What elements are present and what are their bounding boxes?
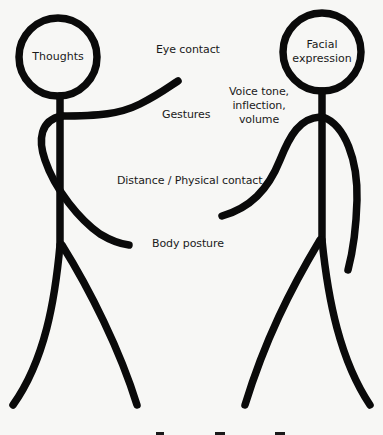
voice-line2: inflection, [229,99,289,113]
eye-contact-label: Eye contact [156,43,220,57]
thoughts-label: Thoughts [19,50,97,64]
distance-physical-contact-label: Distance / Physical contact [117,174,263,188]
left-lower-arm [41,116,129,245]
left-leg-right [62,245,137,405]
right-reaching-arm [222,117,320,216]
left-leg-left [13,245,60,405]
right-leg-left [245,240,320,405]
facial-expression-line1: Facial [283,38,361,52]
gestures-label: Gestures [162,108,210,122]
voice-line3: volume [229,113,289,127]
voice-label: Voice tone, inflection, volume [229,85,289,127]
voice-line1: Voice tone, [229,85,289,99]
body-posture-label: Body posture [152,237,224,251]
right-side-arm [323,117,357,270]
diagram-canvas: Thoughts Facial expression Eye contact G… [0,0,383,435]
facial-expression-line2: expression [283,52,361,66]
facial-expression-label: Facial expression [283,38,361,66]
